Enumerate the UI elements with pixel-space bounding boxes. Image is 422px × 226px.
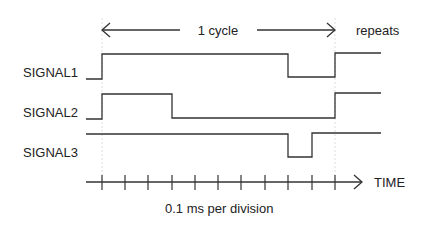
time-axis-label: TIME [374, 175, 405, 190]
signal3-label: SIGNAL3 [23, 145, 78, 160]
signal3-waveform [86, 133, 381, 157]
timing-diagram: 1 cycle repeats SIGNAL1 SIGNAL2 SIGNAL3 … [0, 0, 422, 226]
signal1-label: SIGNAL1 [23, 65, 78, 80]
cycle-label: 1 cycle [198, 23, 238, 38]
scale-label: 0.1 ms per division [165, 201, 273, 216]
signal1-waveform [86, 53, 381, 79]
signal2-waveform [86, 93, 381, 119]
time-axis [86, 175, 362, 190]
repeats-label: repeats [356, 23, 400, 38]
signal2-label: SIGNAL2 [23, 105, 78, 120]
